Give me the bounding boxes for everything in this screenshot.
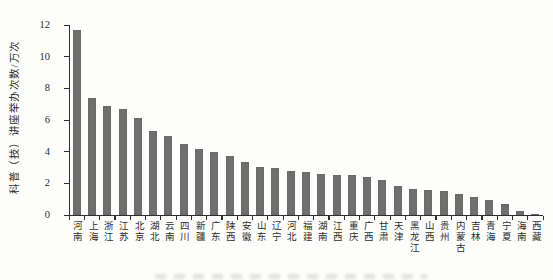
x-axis-line — [69, 215, 543, 216]
x-tick-mark — [145, 216, 146, 220]
bar-北京 — [134, 118, 142, 215]
x-label-湖南: 湖南 — [314, 221, 329, 243]
x-label-河南: 河南 — [69, 221, 84, 243]
bar-新疆 — [195, 149, 203, 216]
y-tick-label: 12 — [18, 20, 50, 30]
x-tick-mark — [130, 216, 131, 220]
x-tick-mark — [420, 216, 421, 220]
y-tick-mark — [64, 88, 69, 89]
x-tick-mark — [527, 216, 528, 220]
cutoff-caption-smudge — [155, 274, 427, 279]
y-tick-label: 10 — [18, 52, 50, 62]
x-label-安徽: 安徽 — [237, 221, 252, 243]
x-label-广东: 广东 — [207, 221, 222, 243]
bar-甘肃 — [378, 180, 386, 215]
x-label-云南: 云南 — [161, 221, 176, 243]
bar-广西 — [363, 177, 371, 215]
x-tick-mark — [69, 216, 70, 220]
bar-广东 — [210, 152, 218, 215]
bar-上海 — [88, 98, 96, 215]
x-tick-mark — [221, 216, 222, 220]
x-label-青海: 青海 — [482, 221, 497, 243]
bar-chart-figure: 科普（技）讲座举办次数/万次 024681012 河南上海浙江江苏北京湖北云南四… — [0, 0, 553, 280]
y-tick-mark — [64, 120, 69, 121]
bar-湖北 — [149, 131, 157, 215]
x-tick-mark — [405, 216, 406, 220]
x-label-海南: 海南 — [512, 221, 527, 243]
x-label-宁夏: 宁夏 — [497, 221, 512, 243]
x-label-新疆: 新疆 — [191, 221, 206, 243]
y-axis-line — [69, 25, 70, 215]
x-label-重庆: 重庆 — [344, 221, 359, 243]
x-tick-mark — [237, 216, 238, 220]
x-label-黑龙江: 黑龙江 — [405, 221, 420, 254]
bar-海南 — [516, 211, 524, 215]
x-label-广西: 广西 — [360, 221, 375, 243]
y-tick-mark — [64, 151, 69, 152]
bar-湖南 — [317, 174, 325, 215]
x-tick-mark — [451, 216, 452, 220]
bar-重庆 — [348, 175, 356, 215]
plot-area: 024681012 河南上海浙江江苏北京湖北云南四川新疆广东陕西安徽山东辽宁河北… — [0, 0, 553, 280]
x-tick-mark — [481, 216, 482, 220]
bar-黑龙江 — [409, 189, 417, 215]
x-tick-mark — [298, 216, 299, 220]
bar-浙江 — [103, 106, 111, 215]
y-tick-mark — [64, 183, 69, 184]
x-tick-mark — [313, 216, 314, 220]
x-label-山东: 山东 — [252, 221, 267, 243]
bar-福建 — [302, 172, 310, 215]
x-label-甘肃: 甘肃 — [375, 221, 390, 243]
x-label-西藏: 西藏 — [528, 221, 543, 243]
x-label-江苏: 江苏 — [115, 221, 130, 243]
x-label-内蒙古: 内蒙古 — [451, 221, 466, 254]
bar-宁夏 — [501, 204, 509, 215]
x-tick-mark — [359, 216, 360, 220]
bar-河南 — [73, 30, 81, 215]
bar-四川 — [180, 144, 188, 215]
x-tick-mark — [114, 216, 115, 220]
x-tick-mark — [344, 216, 345, 220]
bar-安徽 — [241, 162, 249, 215]
x-tick-mark — [497, 216, 498, 220]
x-label-北京: 北京 — [130, 221, 145, 243]
bar-吉林 — [470, 197, 478, 215]
x-label-山西: 山西 — [421, 221, 436, 243]
x-tick-mark — [191, 216, 192, 220]
y-tick-mark — [64, 56, 69, 57]
x-tick-mark — [466, 216, 467, 220]
y-tick-mark — [64, 25, 69, 26]
x-tick-mark — [374, 216, 375, 220]
bar-山东 — [256, 167, 264, 215]
y-tick-label: 8 — [18, 83, 50, 93]
bar-天津 — [394, 186, 402, 215]
x-label-辽宁: 辽宁 — [268, 221, 283, 243]
x-tick-mark — [328, 216, 329, 220]
y-tick-label: 6 — [18, 115, 50, 125]
bar-河北 — [287, 171, 295, 215]
x-tick-mark — [512, 216, 513, 220]
x-tick-mark — [252, 216, 253, 220]
x-label-江西: 江西 — [329, 221, 344, 243]
bar-山西 — [424, 190, 432, 215]
bar-陕西 — [226, 156, 234, 215]
bar-江西 — [333, 175, 341, 215]
x-label-上海: 上海 — [84, 221, 99, 243]
x-label-陕西: 陕西 — [222, 221, 237, 243]
x-label-吉林: 吉林 — [467, 221, 482, 243]
bar-青海 — [485, 200, 493, 215]
x-label-天津: 天津 — [390, 221, 405, 243]
bar-辽宁 — [271, 168, 279, 216]
x-tick-mark — [84, 216, 85, 220]
bar-云南 — [164, 136, 172, 215]
x-tick-mark — [176, 216, 177, 220]
bar-贵州 — [440, 191, 448, 215]
x-tick-mark — [283, 216, 284, 220]
x-tick-mark — [435, 216, 436, 220]
x-tick-mark — [206, 216, 207, 220]
x-tick-mark — [99, 216, 100, 220]
x-tick-mark — [543, 216, 544, 220]
x-label-湖北: 湖北 — [145, 221, 160, 243]
x-tick-mark — [160, 216, 161, 220]
y-tick-label: 2 — [18, 178, 50, 188]
